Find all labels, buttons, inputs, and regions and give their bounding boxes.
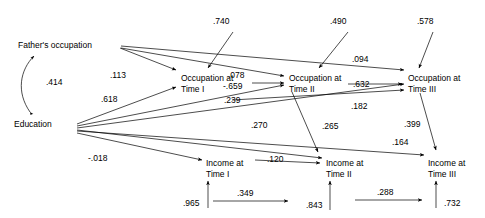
node-income-time-3-line2: Time III [428,169,456,179]
path-diagram-canvas: Father's occupation Education Occupation… [0,0,485,218]
coef-education-inc2: .270 [251,120,268,130]
coef-occ3-inc3: .399 [404,119,421,129]
node-occupation-time-3-line1: Occupation at [408,73,461,83]
residual-arrow-occ3 [419,32,433,68]
coef-residual-inc1: .965 [183,198,200,208]
coef-residual-inc2: .843 [306,200,323,210]
coef-father-occ1: .113 [110,70,126,80]
node-income-time-2-line2: Time II [326,169,352,179]
edge-occ2-inc2 [292,92,318,152]
coef-father-occ3: .094 [352,54,369,64]
coef-residual-occ3: .578 [417,16,434,26]
coef-occ1-occ3: .182 [351,101,368,111]
node-education: Education [14,119,52,129]
node-income-time-1-line2: Time I [206,169,229,179]
edge-education-occ1 [77,87,176,124]
edge-education-inc3 [77,131,424,155]
coef-education-occ1: .618 [101,94,118,104]
node-income-time-3-line1: Income at [428,158,466,168]
edge-occ3-inc3 [420,93,436,150]
coef-occ2-inc2: .265 [322,121,339,131]
node-occupation-time-3-line2: Time III [408,84,436,94]
node-income-time-2-line1: Income at [326,158,364,168]
edge-father-occ2 [121,48,284,76]
coef-residual-corr-inc2-inc3: .288 [377,187,394,197]
coef-residual-occ1: .740 [213,16,230,26]
edge-education-inc2 [77,130,322,158]
coef-education-inc3: .164 [392,137,409,147]
coef-residual-inc3: .732 [444,198,461,208]
coef-residual-corr-inc1-inc2: .349 [237,188,254,198]
edge-inc1-inc2 [255,160,320,163]
node-occupation-time-2-line2: Time II [289,84,315,94]
coef-father-education: .414 [46,77,63,87]
coef-occ2-occ3: .632 [353,79,370,89]
coef-inc1-inc2: .120 [267,154,284,164]
edge-occ1-occ3 [232,90,404,100]
coef-occ1-occ2: -.659 [223,81,243,91]
coef-father-occ2: .078 [228,70,245,80]
edge-father-occ1 [120,48,176,70]
node-occupation-time-1-line2: Time I [181,84,204,94]
node-father-occupation: Father's occupation [18,40,92,50]
path-diagram: Father's occupation Education Occupation… [0,0,485,218]
node-occupation-time-2-line1: Occupation at [289,73,342,83]
residual-arrow-occ1 [208,32,233,68]
node-income-time-1-line1: Income at [206,158,244,168]
residual-arrow-occ2 [319,32,348,68]
edge-father-education-correlation [21,56,34,112]
coef-education-inc1: -.018 [88,153,108,163]
coef-education-occ2: .239 [224,95,241,105]
coef-residual-occ2: .490 [330,16,347,26]
